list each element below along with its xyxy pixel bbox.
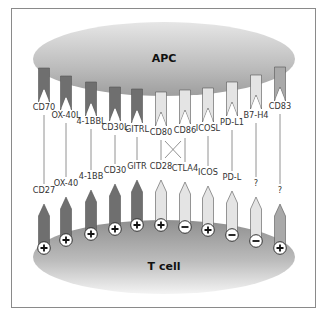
- receptor-label: CD27: [33, 185, 55, 195]
- ligand-receptor-pair: CD83?: [269, 67, 291, 254]
- costimulation-diagram: APC T cell CD70CD27OX-40LOX-404-1BBL4-1B…: [0, 0, 329, 319]
- receptor-label: OX-40: [54, 178, 79, 188]
- receptor-label: CTLA4: [172, 163, 198, 173]
- ligand-label: GITRL: [125, 124, 149, 134]
- ligand-receptor-pair: 4-1BBL4-1BB: [76, 82, 106, 240]
- ligand-shape: [275, 67, 286, 101]
- ligand-shape: [86, 82, 97, 116]
- ligand-receptor-pair: GITRLGITR: [125, 89, 149, 231]
- ligand-receptor-pair: CD30LCD30: [101, 87, 128, 235]
- ligand-shape: [110, 87, 121, 121]
- cross-binding-lines: [165, 141, 181, 158]
- ligand-receptor-pair: CD86CTLA4: [172, 90, 198, 233]
- receptor-label: 4-1BB: [79, 171, 104, 181]
- ligand-label: B7-H4: [243, 110, 268, 120]
- ligand-label: ICOSL: [196, 123, 221, 133]
- ligand-shape: [203, 88, 214, 122]
- ligand-shape: [156, 92, 167, 126]
- ligand-receptor-pair: B7-H4?: [243, 75, 268, 247]
- apc-label: APC: [152, 52, 177, 65]
- ligand-label: CD86: [174, 125, 196, 135]
- ligand-shape: [39, 68, 50, 102]
- ligand-receptor-pair: CD70CD27: [33, 68, 55, 254]
- ligand-shape: [61, 76, 72, 110]
- receptor-label: ?: [278, 185, 282, 195]
- ligand-label: PD-L1: [220, 117, 244, 127]
- ligand-receptor-pair: CD80CD28: [150, 92, 172, 231]
- receptor-label: CD30: [104, 165, 126, 175]
- ligand-receptor-pair: PD-L1PD-L: [220, 82, 244, 241]
- ligand-shape: [251, 75, 262, 109]
- ligand-receptor-pair: OX-40LOX-40: [51, 76, 80, 246]
- receptor-label: GITR: [127, 161, 147, 171]
- receptor-label: ?: [254, 178, 258, 188]
- receptor-label: PD-L: [223, 172, 242, 182]
- receptor-label: ICOS: [198, 167, 218, 177]
- ligand-shape: [227, 82, 238, 116]
- ligand-label: CD83: [269, 101, 291, 111]
- ligand-label: CD80: [150, 127, 172, 137]
- tcell-label: T cell: [148, 260, 181, 273]
- ligand-receptor-pair: ICOSLICOS: [196, 88, 221, 236]
- receptor-label: CD28: [150, 161, 172, 171]
- ligand-shape: [180, 90, 191, 124]
- ligand-shape: [132, 89, 143, 123]
